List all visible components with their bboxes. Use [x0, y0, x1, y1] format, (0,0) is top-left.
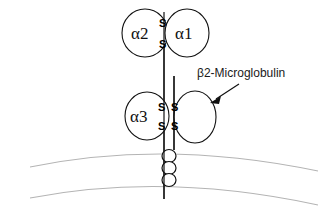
disulfide-s-lower-3: S — [158, 120, 165, 132]
disulfide-s-top-2: S — [159, 38, 166, 50]
alpha1-domain-label: α1 — [175, 24, 192, 43]
diagram-canvas: α2 α1 α3 S S S S S S β2-Microglobulin — [0, 0, 331, 212]
beta2m-annotation-label: β2-Microglobulin — [197, 66, 285, 80]
membrane-inner-arc — [30, 187, 318, 205]
disulfide-s-lower-1: S — [158, 101, 165, 113]
alpha3-domain-label: α3 — [130, 107, 147, 126]
beta2m-annotation-arrow-head — [210, 96, 221, 104]
disulfide-s-lower-4: S — [171, 120, 178, 132]
mhc-class-i-diagram: α2 α1 α3 S S S S S S β2-Microglobulin — [0, 0, 331, 212]
alpha2-domain-label: α2 — [131, 24, 148, 43]
beta2m-annotation-arrow-line — [216, 84, 239, 99]
beta2m-domain-shape — [174, 91, 216, 143]
disulfide-s-top-1: S — [159, 17, 166, 29]
disulfide-s-lower-2: S — [171, 101, 178, 113]
